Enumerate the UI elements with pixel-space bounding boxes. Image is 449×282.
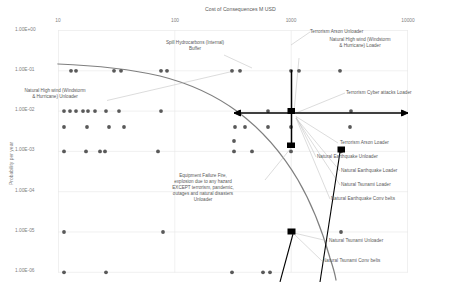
annotation-tsunami-loader: Natural Tsunami Loader: [341, 182, 391, 188]
annotation-windstorm-loader: Natural High wind (Windstorm & Hurricane…: [312, 37, 408, 49]
x-tick-1000: 1000: [286, 18, 297, 23]
annotation-tsunami-conv-belts: Natural Tsunami Conv belts: [323, 258, 380, 264]
y-tick-1e-6: 1.00E-06: [15, 268, 54, 273]
annotation-terrorism-arson-unloader: Terrorism Arson Unloader: [310, 29, 363, 35]
annotation-windstorm-unloader-line2: & Hurricane) Unloader: [2, 94, 108, 100]
annotation-terrorism-arson-loader: Terrorism Arson Loader: [340, 140, 389, 146]
x-tick-10: 10: [55, 18, 60, 23]
y-axis-title: Probability per year: [8, 142, 14, 185]
annotation-spill-hydrocarbons-line2: Buffer: [152, 46, 238, 52]
annotation-equipment-failure: Equipment Failure Fire, explosion due to…: [148, 173, 258, 204]
leader-lines: [107, 32, 345, 261]
annotation-windstorm-unloader: Natural High wind (Windstorm & Hurricane…: [2, 88, 108, 100]
annotation-earthquake-conv-belts: Natural Earthquake Conv belts: [331, 196, 395, 202]
annotation-equipment-failure-line5: Unloader: [148, 197, 258, 203]
annotation-spill-hydrocarbons: Spill Hydrocarbons (Internal) Buffer: [152, 40, 238, 52]
cross-hair-marker: [234, 70, 408, 282]
y-tick-1e-5: 1.00E-05: [15, 228, 54, 233]
y-tick-1e0: 1.00E+00: [15, 27, 54, 32]
x-tick-100: 100: [171, 18, 179, 23]
annotation-tsunami-unloader: Natural Tsunami Unloader: [329, 238, 383, 244]
annotation-earthquake-loader: Natural Earthquake Loader: [341, 168, 397, 174]
annotation-windstorm-loader-line2: & Hurricane) Loader: [312, 43, 408, 49]
y-tick-1e-1: 1.00E-01: [15, 67, 54, 72]
risk-matrix-chart: Cost of Consequences M USD Probability p…: [0, 0, 449, 282]
y-tick-1e-4: 1.00E-04: [15, 188, 54, 193]
y-tick-1e-2: 1.00E-02: [15, 107, 54, 112]
x-tick-10000: 10000: [401, 18, 414, 23]
annotation-terrorism-cyber-loader: Terrorism Cyber attacks Loader: [346, 90, 412, 96]
y-tick-1e-3: 1.00E-03: [15, 147, 54, 152]
x-axis-title: Cost of Consequences M USD: [205, 6, 276, 12]
annotation-earthquake-unloader: Natural Earthquake Unloader: [317, 154, 378, 160]
